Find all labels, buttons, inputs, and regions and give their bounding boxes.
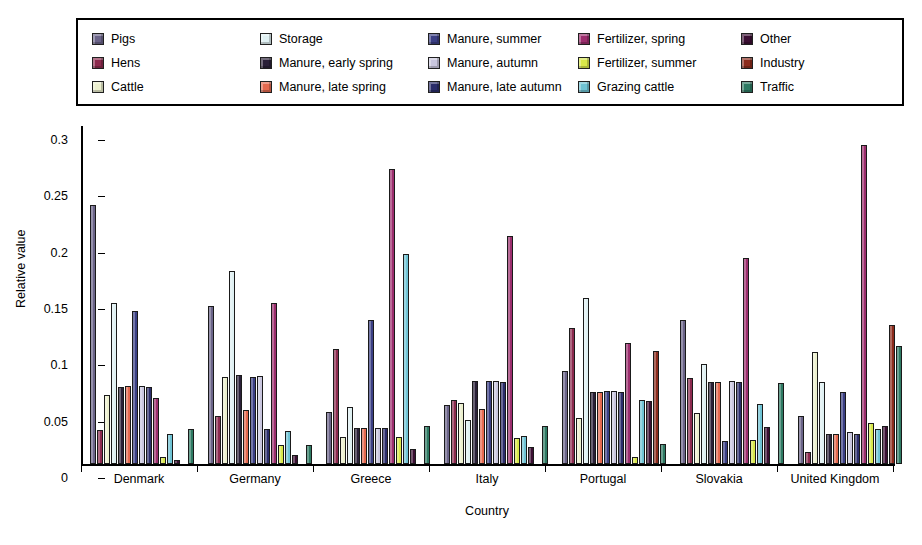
bar — [403, 254, 409, 464]
bar — [250, 377, 256, 464]
bar — [444, 405, 450, 464]
legend-swatch-icon — [428, 81, 440, 93]
bar — [833, 434, 839, 464]
x-axis-tick-label: Slovakia — [661, 472, 777, 486]
bar — [694, 413, 700, 464]
legend-item: Manure, late autumn — [428, 81, 578, 94]
legend-item: Manure, summer — [428, 33, 578, 46]
legend-item: Traffic — [741, 81, 911, 94]
x-axis-tick-mark — [777, 464, 778, 472]
bar — [889, 325, 895, 464]
x-axis-tick-label: United Kingdom — [777, 472, 893, 486]
legend-swatch-icon — [428, 57, 440, 69]
legend-swatch-icon — [741, 81, 753, 93]
legend-item: Other — [741, 33, 911, 46]
bar-plot-area — [83, 126, 895, 464]
legend-item-label: Fertilizer, spring — [597, 33, 685, 46]
bar — [701, 364, 707, 464]
legend-item: Manure, early spring — [260, 57, 428, 70]
x-axis-tick-mark — [429, 464, 430, 472]
bar — [722, 441, 728, 464]
bar — [278, 445, 284, 464]
country-bar-group — [83, 126, 201, 464]
legend-swatch-icon — [578, 57, 590, 69]
legend-item-label: Hens — [111, 57, 140, 70]
bar — [396, 437, 402, 464]
bar — [687, 378, 693, 464]
legend-item-label: Manure, autumn — [447, 57, 538, 70]
legend-grid: PigsStorageManure, summerFertilizer, spr… — [92, 27, 892, 99]
bar — [188, 429, 194, 464]
legend-swatch-icon — [578, 81, 590, 93]
legend-swatch-icon — [741, 57, 753, 69]
bar — [236, 375, 242, 464]
bar — [750, 440, 756, 464]
y-axis-tick-label: 0.1 — [51, 358, 68, 372]
chart-legend: PigsStorageManure, summerFertilizer, spr… — [76, 18, 904, 106]
x-axis-tick-labels: DenmarkGermanyGreeceItalyPortugalSlovaki… — [81, 472, 893, 486]
legend-item-label: Fertilizer, summer — [597, 57, 696, 70]
x-axis-tick-label: Greece — [313, 472, 429, 486]
country-bar-group — [319, 126, 437, 464]
bar — [826, 434, 832, 464]
bar — [486, 381, 492, 464]
bar — [243, 410, 249, 464]
bar — [382, 428, 388, 464]
bar — [521, 436, 527, 464]
bar — [854, 434, 860, 464]
bar — [264, 429, 270, 464]
y-axis-tick-label: 0.2 — [51, 246, 68, 260]
legend-item-label: Pigs — [111, 33, 135, 46]
chart-plot-wrapper: Relative value 00.050.10.150.20.250.3 De… — [0, 112, 922, 545]
legend-swatch-icon — [260, 57, 272, 69]
bar — [354, 428, 360, 464]
legend-item-label: Industry — [760, 57, 804, 70]
country-bar-group — [201, 126, 319, 464]
legend-item: Manure, late spring — [260, 81, 428, 94]
bar — [292, 455, 298, 464]
legend-item: Industry — [741, 57, 911, 70]
x-axis-tick-mark — [81, 464, 82, 472]
bar — [326, 412, 332, 464]
bar — [125, 386, 131, 464]
legend-item: Hens — [92, 57, 260, 70]
bar — [611, 391, 617, 464]
bar — [569, 328, 575, 464]
bar — [361, 428, 367, 464]
bar — [424, 426, 430, 464]
bar — [868, 423, 874, 464]
legend-swatch-icon — [741, 33, 753, 45]
bar — [111, 303, 117, 464]
bar — [160, 457, 166, 464]
bar — [590, 392, 596, 464]
country-bar-group — [437, 126, 555, 464]
bar — [764, 427, 770, 464]
bar — [847, 432, 853, 464]
x-axis-tick-mark — [661, 464, 662, 472]
bar — [729, 381, 735, 464]
bar — [861, 145, 867, 464]
bar — [896, 346, 902, 464]
legend-item: Manure, autumn — [428, 57, 578, 70]
bar — [757, 404, 763, 464]
legend-item: Pigs — [92, 33, 260, 46]
x-axis-title: Country — [81, 504, 893, 518]
bar — [257, 376, 263, 464]
bar — [708, 382, 714, 464]
bar — [167, 434, 173, 464]
bar — [306, 445, 312, 464]
legend-item: Cattle — [92, 81, 260, 94]
bar — [410, 449, 416, 464]
bar — [132, 311, 138, 464]
bar — [562, 371, 568, 465]
x-axis-tick-label: Italy — [429, 472, 545, 486]
bar — [215, 416, 221, 464]
bar — [812, 352, 818, 464]
bar — [451, 400, 457, 464]
legend-item-label: Cattle — [111, 81, 144, 94]
bar — [819, 382, 825, 464]
y-axis-tick-label: 0.15 — [44, 302, 68, 316]
y-axis-tick-label: 0.25 — [44, 189, 68, 203]
bar — [597, 392, 603, 464]
x-axis-tick-mark — [545, 464, 546, 472]
